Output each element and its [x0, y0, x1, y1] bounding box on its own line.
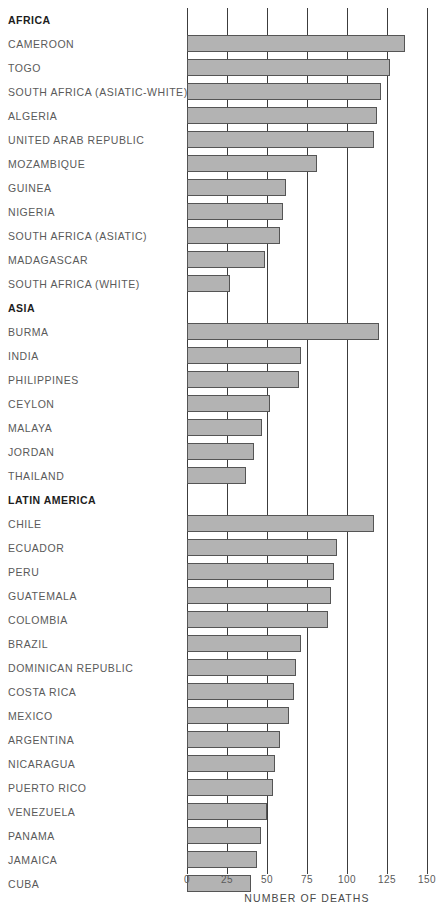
bar	[187, 587, 331, 604]
bar	[187, 467, 246, 484]
category-label: INDIA	[8, 344, 39, 368]
bar	[187, 659, 296, 676]
category-label: GUINEA	[8, 176, 52, 200]
group-header-africa: AFRICA	[0, 8, 444, 32]
x-tick-label-75: 75	[301, 874, 313, 885]
bar	[187, 611, 328, 628]
bar-row: SOUTH AFRICA (WHITE)	[0, 272, 444, 296]
bar-chart: AFRICACAMEROONTOGOSOUTH AFRICA (ASIATIC-…	[0, 0, 444, 915]
group-header-label: ASIA	[8, 296, 35, 320]
category-label: COLOMBIA	[8, 608, 68, 632]
bar	[187, 539, 337, 556]
bar-row: COLOMBIA	[0, 608, 444, 632]
bar	[187, 251, 265, 268]
category-label: BURMA	[8, 320, 49, 344]
bar-row: NICARAGUA	[0, 752, 444, 776]
bar	[187, 155, 317, 172]
bar	[187, 443, 254, 460]
bar-row: INDIA	[0, 344, 444, 368]
bar-row: GUATEMALA	[0, 584, 444, 608]
x-tick-label-150: 150	[418, 874, 436, 885]
bar-row: GUINEA	[0, 176, 444, 200]
category-label: DOMINICAN REPUBLIC	[8, 656, 133, 680]
category-label: ARGENTINA	[8, 728, 74, 752]
category-label: MOZAMBIQUE	[8, 152, 85, 176]
bar	[187, 35, 405, 52]
category-label: MADAGASCAR	[8, 248, 88, 272]
category-label: UNITED ARAB REPUBLIC	[8, 128, 144, 152]
bar-row: NIGERIA	[0, 200, 444, 224]
bar	[187, 371, 299, 388]
bar	[187, 59, 390, 76]
bar-row: MOZAMBIQUE	[0, 152, 444, 176]
category-label: MEXICO	[8, 704, 53, 728]
category-label: NIGERIA	[8, 200, 55, 224]
category-label: CHILE	[8, 512, 42, 536]
bar-row: CAMEROON	[0, 32, 444, 56]
group-header-latin-america: LATIN AMERICA	[0, 488, 444, 512]
bar	[187, 131, 374, 148]
category-label: BRAZIL	[8, 632, 48, 656]
bar-row: UNITED ARAB REPUBLIC	[0, 128, 444, 152]
category-label: JAMAICA	[8, 848, 57, 872]
bar-row: PERU	[0, 560, 444, 584]
bar	[187, 755, 275, 772]
bar	[187, 707, 289, 724]
bar-row: VENEZUELA	[0, 800, 444, 824]
bar-row: PUERTO RICO	[0, 776, 444, 800]
x-axis-title: NUMBER OF DEATHS	[187, 892, 427, 904]
bar	[187, 683, 294, 700]
x-tick-label-100: 100	[338, 874, 356, 885]
bar-row: MADAGASCAR	[0, 248, 444, 272]
category-label: ECUADOR	[8, 536, 64, 560]
category-label: SOUTH AFRICA (WHITE)	[8, 272, 140, 296]
bar	[187, 275, 230, 292]
bar	[187, 227, 280, 244]
bar	[187, 515, 374, 532]
bar	[187, 347, 301, 364]
bar	[187, 179, 286, 196]
category-label: PHILIPPINES	[8, 368, 79, 392]
category-label: PANAMA	[8, 824, 55, 848]
bar-row: PHILIPPINES	[0, 368, 444, 392]
bar-row: DOMINICAN REPUBLIC	[0, 656, 444, 680]
category-label: NICARAGUA	[8, 752, 75, 776]
bar	[187, 827, 261, 844]
x-tick-label-50: 50	[261, 874, 273, 885]
bar-row: COSTA RICA	[0, 680, 444, 704]
bar	[187, 323, 379, 340]
bar	[187, 803, 267, 820]
bar-row: JORDAN	[0, 440, 444, 464]
x-tick-label-25: 25	[221, 874, 233, 885]
bar-row: SOUTH AFRICA (ASIATIC-WHITE)	[0, 80, 444, 104]
bar-row: BRAZIL	[0, 632, 444, 656]
category-label: COSTA RICA	[8, 680, 76, 704]
bar-row: THAILAND	[0, 464, 444, 488]
bar	[187, 107, 377, 124]
bar-row: BURMA	[0, 320, 444, 344]
bar-row: MEXICO	[0, 704, 444, 728]
bar-row: ALGERIA	[0, 104, 444, 128]
category-label: SOUTH AFRICA (ASIATIC)	[8, 224, 147, 248]
category-label: VENEZUELA	[8, 800, 75, 824]
x-tick-label-0: 0	[184, 874, 190, 885]
bar	[187, 851, 257, 868]
bar-row: CEYLON	[0, 392, 444, 416]
bar	[187, 635, 301, 652]
group-header-label: AFRICA	[8, 8, 51, 32]
category-label: SOUTH AFRICA (ASIATIC-WHITE)	[8, 80, 188, 104]
category-label: CAMEROON	[8, 32, 74, 56]
bar	[187, 395, 270, 412]
category-label: PERU	[8, 560, 39, 584]
bar-row: SOUTH AFRICA (ASIATIC)	[0, 224, 444, 248]
bar	[187, 779, 273, 796]
bar-row: CHILE	[0, 512, 444, 536]
bar	[187, 203, 283, 220]
x-axis: 0255075100125150 NUMBER OF DEATHS	[0, 874, 444, 915]
bar-row: JAMAICA	[0, 848, 444, 872]
category-label: MALAYA	[8, 416, 52, 440]
group-header-asia: ASIA	[0, 296, 444, 320]
category-label: ALGERIA	[8, 104, 57, 128]
bar	[187, 731, 280, 748]
category-label: GUATEMALA	[8, 584, 77, 608]
